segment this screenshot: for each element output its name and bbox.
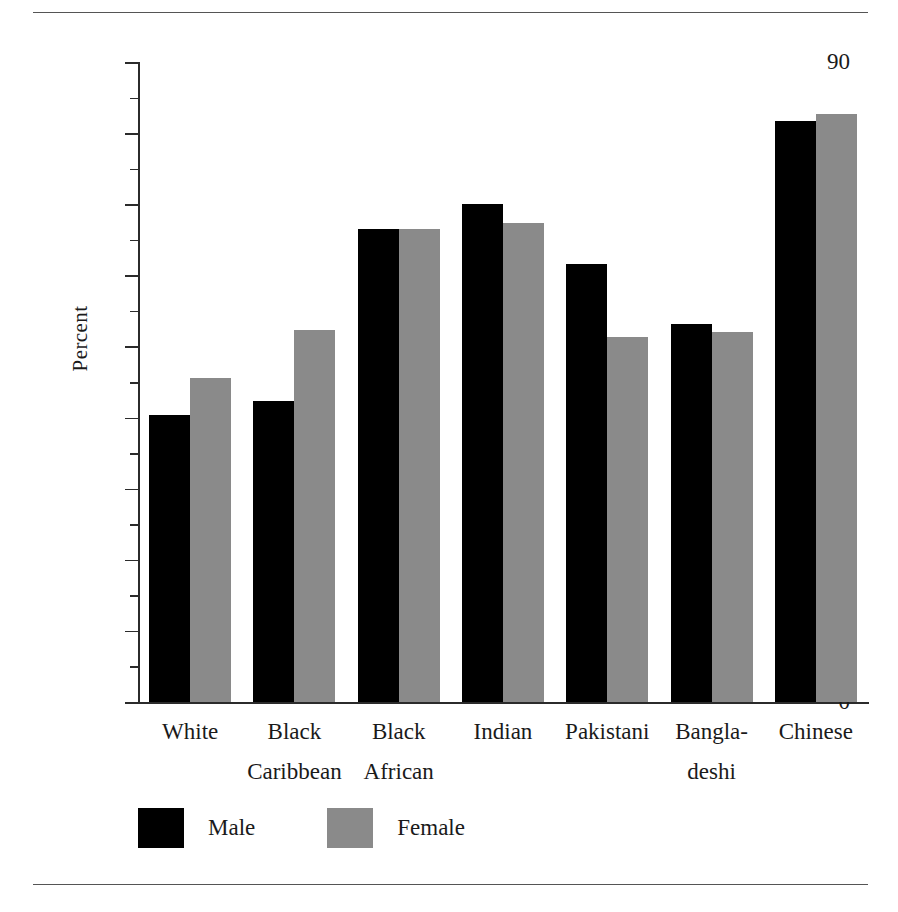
y-axis-tick-major [125,702,138,704]
bar-group [451,62,555,702]
y-axis-tick-minor [130,382,138,384]
x-axis-category-label: Pakistani [555,712,659,752]
bar-male [775,121,816,702]
bar-female [816,114,857,702]
x-axis-category-label: Bangla-deshi [659,712,763,792]
bar-female [190,378,231,702]
y-axis-tick-minor [130,524,138,526]
x-axis-category-label: White [138,712,242,752]
y-axis-tick-major [125,560,138,562]
y-axis-tick-major [125,204,138,206]
category-label-line1: Black [268,719,322,744]
category-label-line2: Caribbean [242,752,346,792]
y-axis-tick-minor [130,453,138,455]
bar-female [712,332,753,702]
category-label-line1: Bangla- [675,719,748,744]
legend-entry: Male [138,808,255,848]
y-axis-tick-minor [130,595,138,597]
male-swatch [138,808,184,848]
category-label-line1: Indian [474,719,533,744]
bar-male [671,324,712,702]
bar-male [149,415,190,702]
bar-group [242,62,346,702]
y-axis-tick-major [125,346,138,348]
chart-legend: MaleFemale [138,808,465,848]
legend-entry: Female [327,808,465,848]
y-axis-tick-major [125,631,138,633]
y-axis-title: Percent [68,259,93,419]
bar-group [555,62,659,702]
bar-group [764,62,868,702]
chart-figure: Percent 0102030405060708090 WhiteBlackCa… [0,0,898,912]
category-label-line1: Pakistani [565,719,649,744]
y-axis-tick-major [125,418,138,420]
x-axis-category-label: BlackAfrican [347,712,451,792]
y-axis-tick-major [125,62,138,64]
y-axis-tick-minor [130,169,138,171]
bar-group [347,62,451,702]
legend-label: Male [208,815,255,841]
bar-male [462,204,503,702]
x-axis-category-label: BlackCaribbean [242,712,346,792]
plot-area: 0102030405060708090 [138,62,868,702]
bar-female [607,337,648,702]
y-axis-tick-minor [130,666,138,668]
female-swatch [327,808,373,848]
y-axis-tick-major [125,133,138,135]
x-axis-category-label: Chinese [764,712,868,752]
y-axis-tick-minor [130,98,138,100]
y-axis-tick-major [125,275,138,277]
y-axis-tick-major [125,489,138,491]
bar-male [358,229,399,702]
category-label-line2: deshi [659,752,763,792]
bar-group [138,62,242,702]
bar-group [659,62,763,702]
x-axis-line [138,702,869,704]
y-axis-tick-minor [130,311,138,313]
bar-male [253,401,294,703]
legend-label: Female [397,815,465,841]
bottom-rule [33,884,868,885]
bar-female [503,223,544,702]
y-axis-tick-minor [130,240,138,242]
top-rule [33,12,868,13]
category-label-line1: Chinese [779,719,853,744]
category-label-line1: White [162,719,218,744]
bar-female [294,330,335,702]
category-label-line1: Black [372,719,426,744]
category-label-line2: African [347,752,451,792]
bar-male [566,264,607,702]
x-axis-category-label: Indian [451,712,555,752]
bar-female [399,229,440,702]
